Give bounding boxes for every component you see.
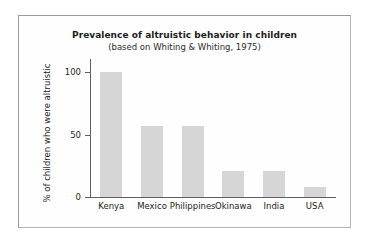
chart-title: Prevalence of altruistic behavior in chi… [19,30,350,40]
chart-figure-frame: Prevalence of altruistic behavior in chi… [18,15,351,228]
y-tick-mark [85,135,90,136]
bar [263,171,285,197]
y-axis-title: % of children who were altruistic [42,63,52,203]
x-axis-line [90,197,336,198]
y-tick-mark [85,72,90,73]
bar [141,126,163,197]
bar [100,72,122,197]
y-tick-label: 100 [65,67,81,77]
y-tick-mark [85,197,90,198]
chart-subtitle: (based on Whiting & Whiting, 1975) [19,42,350,52]
bar [222,171,244,197]
bar [182,126,204,197]
chart-canvas: Prevalence of altruistic behavior in chi… [19,16,350,227]
x-tick-label: USA [265,201,365,211]
plot-area [91,60,335,197]
y-tick-label: 50 [70,130,81,140]
bar [304,187,326,197]
